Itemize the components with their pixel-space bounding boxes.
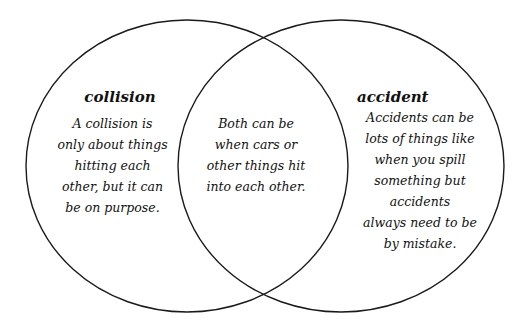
left-circle-text: A collision is only about things hitting… (45, 113, 180, 218)
overlap-text: Both can be when cars or other things hi… (191, 113, 321, 197)
right-circle-title: accident (357, 88, 447, 106)
left-circle-title: collision (70, 88, 170, 106)
right-circle-text: Accidents can be lots of things like whe… (345, 107, 495, 254)
